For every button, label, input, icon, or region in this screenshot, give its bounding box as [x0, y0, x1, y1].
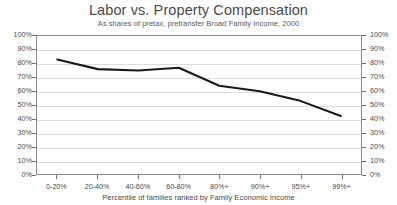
x-axis-tick-label: 99%+ [332, 183, 351, 190]
x-axis-tick-label: 90%+ [251, 183, 270, 190]
y-axis-tick-mark-left [32, 49, 36, 50]
y-axis-tick-label-right: 0% [370, 171, 397, 178]
line-series-labor-compensation [57, 59, 341, 116]
y-axis-tick-mark-right [362, 63, 366, 64]
y-axis-tick-label-right: 90% [370, 45, 397, 52]
x-axis-tick-label: 95%+ [292, 183, 311, 190]
x-axis-tick-mark [97, 175, 98, 179]
y-axis-tick-label-left: 30% [2, 129, 32, 136]
x-axis-tick-label: 20-40% [85, 183, 110, 190]
y-axis-tick-mark-left [32, 133, 36, 134]
y-axis-tick-label-right: 50% [370, 101, 397, 108]
x-axis-tick-label: 0-20% [46, 183, 67, 190]
y-axis-tick-label-left: 20% [2, 143, 32, 150]
y-axis-tick-label-right: 60% [370, 87, 397, 94]
y-axis-tick-mark-right [362, 77, 366, 78]
y-axis-tick-label-left: 50% [2, 101, 32, 108]
y-axis-tick-mark-left [32, 175, 36, 176]
x-axis-tick-mark [342, 175, 343, 179]
y-axis-tick-label-right: 80% [370, 59, 397, 66]
y-axis-tick-mark-left [32, 105, 36, 106]
x-axis-tick-label: 40-60% [125, 183, 150, 190]
y-axis-tick-mark-left [32, 63, 36, 64]
y-axis-tick-mark-right [362, 119, 366, 120]
y-axis-tick-mark-left [32, 161, 36, 162]
y-axis-tick-label-left: 80% [2, 59, 32, 66]
y-axis-tick-mark-right [362, 35, 366, 36]
y-axis-tick-mark-right [362, 133, 366, 134]
y-axis-tick-label-left: 40% [2, 115, 32, 122]
chart-title: Labor vs. Property Compensation [0, 2, 397, 18]
y-axis-tick-mark-left [32, 119, 36, 120]
y-axis-tick-mark-right [362, 49, 366, 50]
x-axis-tick-mark [138, 175, 139, 179]
y-axis-tick-label-right: 40% [370, 115, 397, 122]
y-axis-tick-label-left: 90% [2, 45, 32, 52]
y-axis-tick-label-right: 30% [370, 129, 397, 136]
y-axis-tick-label-left: 70% [2, 73, 32, 80]
x-axis-tick-mark [179, 175, 180, 179]
y-axis-tick-label-left: 10% [2, 157, 32, 164]
plot-area [36, 35, 362, 175]
y-axis-tick-label-left: 60% [2, 87, 32, 94]
y-axis-tick-mark-right [362, 91, 366, 92]
y-axis-tick-label-right: 20% [370, 143, 397, 150]
x-axis-tick-mark [301, 175, 302, 179]
y-axis-tick-label-right: 70% [370, 73, 397, 80]
y-axis-tick-label-right: 10% [370, 157, 397, 164]
y-axis-tick-mark-left [32, 91, 36, 92]
x-axis-title: Percentile of families ranked by Family … [0, 193, 397, 202]
y-axis-tick-mark-right [362, 161, 366, 162]
y-axis-tick-label-right: 100% [370, 31, 397, 38]
x-axis-tick-label: 60-80% [166, 183, 191, 190]
x-axis-tick-mark [56, 175, 57, 179]
y-axis-tick-label-left: 100% [2, 31, 32, 38]
chart-container: Labor vs. Property Compensation As share… [0, 0, 397, 205]
y-axis-tick-label-left: 0% [2, 171, 32, 178]
y-axis-tick-mark-left [32, 77, 36, 78]
x-axis-tick-mark [219, 175, 220, 179]
x-axis-tick-label: 80%+ [210, 183, 229, 190]
y-axis-tick-mark-right [362, 105, 366, 106]
data-series-layer [37, 36, 361, 174]
y-axis-tick-mark-left [32, 147, 36, 148]
y-axis-tick-mark-right [362, 175, 366, 176]
chart-subtitle: As shares of pretax, pretransfer Broad F… [0, 19, 397, 28]
x-axis-tick-mark [260, 175, 261, 179]
y-axis-tick-mark-right [362, 147, 366, 148]
y-axis-tick-mark-left [32, 35, 36, 36]
